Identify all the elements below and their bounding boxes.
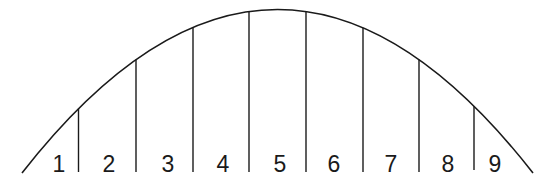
parabola-strip-diagram: 123456789 (0, 0, 548, 183)
strip-label-1: 1 (53, 151, 66, 177)
strip-label-3: 3 (162, 151, 175, 177)
parabola-curve (22, 10, 533, 174)
strip-dividers (79, 12, 475, 173)
strip-label-5: 5 (274, 151, 287, 177)
strip-label-4: 4 (217, 151, 230, 177)
strip-label-9: 9 (489, 151, 502, 177)
strip-label-8: 8 (442, 151, 455, 177)
strip-label-2: 2 (103, 151, 116, 177)
strip-label-7: 7 (385, 151, 398, 177)
strip-label-6: 6 (328, 151, 341, 177)
strip-labels: 123456789 (53, 151, 502, 177)
